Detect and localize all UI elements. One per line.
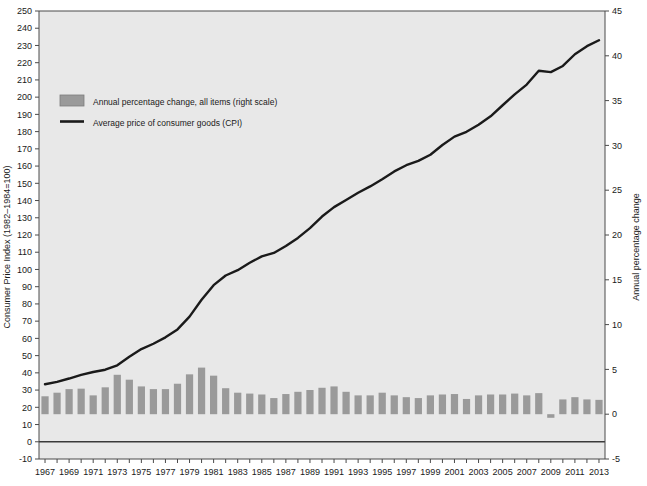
x-tick-label-2001: 2001: [444, 467, 464, 477]
bar-2001: [451, 394, 458, 414]
x-tick-label-2011: 2011: [565, 467, 584, 477]
bar-2009: [547, 414, 554, 418]
bar-1982: [222, 388, 229, 414]
x-tick-label-1981: 1981: [204, 467, 224, 477]
bar-1987: [282, 394, 289, 414]
bar-1983: [234, 393, 241, 415]
x-tick-label-1979: 1979: [180, 467, 200, 477]
right-tick-label--5: -5: [612, 454, 620, 464]
bar-1996: [391, 395, 398, 414]
right-axis-title: Annual percentage change: [631, 193, 641, 301]
bar-2006: [511, 394, 518, 415]
left-tick-label-30: 30: [22, 385, 32, 395]
bar-1990: [318, 388, 325, 414]
bar-1999: [427, 395, 434, 414]
bar-2013: [595, 400, 602, 414]
legend-label-1: Average price of consumer goods (CPI): [93, 118, 242, 128]
bar-2002: [463, 399, 470, 414]
legend-label-0: Annual percentage change, all items (rig…: [93, 97, 277, 107]
left-tick-label-200: 200: [17, 92, 32, 102]
bar-1978: [174, 384, 181, 414]
cpi-inflation-chart: -100102030405060708090100110120130140150…: [0, 0, 647, 486]
bar-1970: [78, 389, 85, 415]
left-tick-label-240: 240: [17, 23, 32, 33]
x-tick-label-1995: 1995: [372, 467, 392, 477]
x-tick-label-1973: 1973: [107, 467, 127, 477]
x-tick-label-1993: 1993: [348, 467, 368, 477]
bar-2012: [583, 399, 590, 414]
right-tick-label-10: 10: [612, 320, 622, 330]
bar-1981: [210, 376, 217, 415]
bar-1994: [367, 395, 374, 414]
x-tick-label-1983: 1983: [228, 467, 248, 477]
right-tick-label-15: 15: [612, 275, 622, 285]
right-tick-label-5: 5: [612, 365, 617, 375]
bar-2003: [475, 395, 482, 414]
left-tick-label-90: 90: [22, 282, 32, 292]
bar-2011: [571, 397, 578, 414]
bar-2010: [559, 399, 566, 414]
left-tick-label-100: 100: [17, 265, 32, 275]
chart-container: -100102030405060708090100110120130140150…: [0, 0, 647, 486]
bar-1976: [150, 389, 157, 414]
bar-1993: [355, 395, 362, 414]
bar-1972: [102, 387, 109, 414]
x-tick-label-2003: 2003: [469, 467, 489, 477]
bar-1968: [53, 393, 60, 415]
left-tick-label-160: 160: [17, 161, 32, 171]
left-tick-label-170: 170: [17, 144, 32, 154]
x-tick-label-1977: 1977: [155, 467, 175, 477]
bar-1984: [246, 394, 253, 415]
left-tick-label-220: 220: [17, 58, 32, 68]
right-tick-label-30: 30: [612, 141, 622, 151]
bar-1973: [114, 375, 121, 414]
bar-1977: [162, 389, 169, 414]
left-tick-label-80: 80: [22, 299, 32, 309]
left-tick-label-130: 130: [17, 213, 32, 223]
right-tick-label-25: 25: [612, 185, 622, 195]
bar-1974: [126, 380, 133, 415]
bar-1997: [403, 397, 410, 414]
left-tick-label-180: 180: [17, 127, 32, 137]
bar-2007: [523, 395, 530, 414]
bar-1985: [258, 394, 265, 414]
x-tick-label-1975: 1975: [131, 467, 151, 477]
left-tick-label-70: 70: [22, 316, 32, 326]
x-tick-label-2007: 2007: [517, 467, 537, 477]
bar-1969: [65, 389, 72, 414]
x-tick-label-1967: 1967: [35, 467, 55, 477]
left-tick-label-0: 0: [27, 437, 32, 447]
left-tick-label-190: 190: [17, 110, 32, 120]
bar-1986: [270, 398, 277, 414]
left-tick-label--10: -10: [19, 454, 32, 464]
left-tick-label-50: 50: [22, 351, 32, 361]
x-tick-label-1987: 1987: [276, 467, 296, 477]
left-tick-label-110: 110: [18, 247, 32, 257]
bar-1992: [342, 392, 349, 414]
right-tick-label-45: 45: [612, 6, 622, 16]
x-tick-label-1991: 1991: [324, 467, 344, 477]
left-tick-label-210: 210: [17, 75, 32, 85]
x-tick-label-2013: 2013: [589, 467, 609, 477]
right-tick-label-0: 0: [612, 409, 617, 419]
right-tick-label-35: 35: [612, 96, 622, 106]
bar-1998: [415, 398, 422, 414]
bar-1989: [306, 390, 313, 414]
x-tick-label-1971: 1971: [83, 467, 103, 477]
left-axis-title: Consumer Price Index (1982–1984=100): [2, 166, 12, 329]
right-tick-label-40: 40: [612, 51, 622, 61]
left-tick-label-140: 140: [17, 196, 32, 206]
bar-1967: [41, 396, 48, 414]
x-tick-label-2005: 2005: [493, 467, 513, 477]
right-tick-label-20: 20: [612, 230, 622, 240]
x-tick-label-1969: 1969: [59, 467, 79, 477]
x-tick-label-1999: 1999: [420, 467, 440, 477]
bar-2000: [439, 394, 446, 414]
x-tick-label-2009: 2009: [541, 467, 561, 477]
x-tick-label-1997: 1997: [396, 467, 416, 477]
left-tick-label-250: 250: [17, 6, 32, 16]
left-tick-label-40: 40: [22, 368, 32, 378]
left-tick-label-230: 230: [17, 41, 32, 51]
left-tick-label-150: 150: [17, 179, 32, 189]
legend-swatch-bar: [60, 95, 84, 106]
